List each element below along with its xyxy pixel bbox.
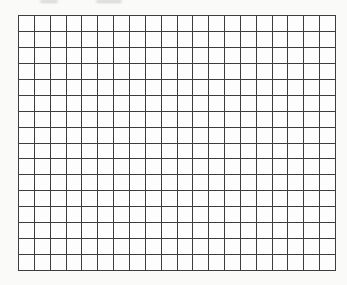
grid-cell bbox=[209, 80, 224, 95]
grid-cell bbox=[209, 112, 224, 127]
grid-cell bbox=[146, 96, 161, 111]
grid-cell bbox=[225, 64, 240, 79]
grid-cell bbox=[178, 96, 193, 111]
grid-cell bbox=[288, 96, 303, 111]
grid-cell bbox=[114, 159, 129, 174]
grid-cell bbox=[130, 16, 145, 31]
grid-cell bbox=[146, 175, 161, 190]
grid-cell bbox=[114, 16, 129, 31]
grid-cell bbox=[35, 175, 50, 190]
grid-cell bbox=[130, 191, 145, 206]
grid-cell bbox=[225, 96, 240, 111]
grid-cell bbox=[19, 128, 34, 143]
grid-cell bbox=[114, 112, 129, 127]
grid-cell bbox=[304, 16, 319, 31]
grid-cell bbox=[162, 239, 177, 254]
grid-cell bbox=[130, 144, 145, 159]
grid-cell bbox=[114, 32, 129, 47]
grid-cell bbox=[178, 128, 193, 143]
grid-cell bbox=[35, 255, 50, 270]
grid-cell bbox=[209, 32, 224, 47]
grid-cell bbox=[51, 255, 66, 270]
grid-cell bbox=[146, 32, 161, 47]
grid-cell bbox=[82, 16, 97, 31]
grid-cell bbox=[209, 175, 224, 190]
grid-cell bbox=[146, 48, 161, 63]
grid-cell bbox=[67, 239, 82, 254]
grid-cell bbox=[98, 255, 113, 270]
grid-cell bbox=[82, 144, 97, 159]
grid-cell bbox=[288, 191, 303, 206]
grid-cell bbox=[114, 223, 129, 238]
grid-cell bbox=[146, 16, 161, 31]
grid-cell bbox=[241, 207, 256, 222]
grid-cell bbox=[320, 207, 335, 222]
grid-cell bbox=[241, 64, 256, 79]
grid-cell bbox=[304, 32, 319, 47]
grid-cell bbox=[51, 112, 66, 127]
grid-cell bbox=[130, 64, 145, 79]
grid-cell bbox=[146, 239, 161, 254]
grid-cell bbox=[114, 255, 129, 270]
grid-cell bbox=[67, 223, 82, 238]
grid-cell bbox=[130, 32, 145, 47]
grid-cell bbox=[146, 144, 161, 159]
grid-cell bbox=[288, 48, 303, 63]
grid-cell bbox=[51, 16, 66, 31]
grid-cell bbox=[51, 144, 66, 159]
grid-cell bbox=[98, 112, 113, 127]
grid-cell bbox=[67, 175, 82, 190]
grid-cell bbox=[67, 144, 82, 159]
grid-cell bbox=[288, 223, 303, 238]
grid-cell bbox=[114, 128, 129, 143]
grid-cell bbox=[98, 128, 113, 143]
grid-cell bbox=[304, 239, 319, 254]
grid-cell bbox=[257, 16, 272, 31]
grid-cell bbox=[51, 64, 66, 79]
grid-cell bbox=[114, 239, 129, 254]
grid-cell bbox=[304, 159, 319, 174]
grid-cell bbox=[193, 175, 208, 190]
grid-cell bbox=[67, 80, 82, 95]
grid-cell bbox=[193, 223, 208, 238]
grid-cell bbox=[273, 112, 288, 127]
grid-cell bbox=[162, 48, 177, 63]
grid-cell bbox=[257, 32, 272, 47]
grid-cell bbox=[67, 159, 82, 174]
grid-cell bbox=[241, 128, 256, 143]
grid-cell bbox=[225, 239, 240, 254]
grid-cell bbox=[130, 223, 145, 238]
grid-cell bbox=[67, 112, 82, 127]
grid-cell bbox=[114, 175, 129, 190]
grid-cell bbox=[257, 175, 272, 190]
grid-cell bbox=[257, 159, 272, 174]
grid-cell bbox=[35, 16, 50, 31]
grid-cell bbox=[162, 32, 177, 47]
grid-cell bbox=[162, 80, 177, 95]
grid-cell bbox=[304, 96, 319, 111]
grid-cell bbox=[209, 207, 224, 222]
grid-cell bbox=[225, 255, 240, 270]
grid-cell bbox=[241, 239, 256, 254]
grid-cell bbox=[320, 255, 335, 270]
grid-cell bbox=[304, 112, 319, 127]
grid-cell bbox=[19, 191, 34, 206]
grid-cell bbox=[288, 80, 303, 95]
grid-cell bbox=[67, 48, 82, 63]
grid-cell bbox=[273, 48, 288, 63]
grid-cell bbox=[114, 48, 129, 63]
grid-cell bbox=[320, 175, 335, 190]
grid-cell bbox=[146, 207, 161, 222]
grid-cell bbox=[114, 80, 129, 95]
cropped-text-artifact bbox=[96, 0, 122, 3]
grid-cell bbox=[241, 96, 256, 111]
grid-cell bbox=[209, 239, 224, 254]
grid-cell bbox=[98, 175, 113, 190]
grid-cell bbox=[19, 239, 34, 254]
grid-cell bbox=[130, 159, 145, 174]
grid-cell bbox=[82, 128, 97, 143]
grid-cell bbox=[193, 159, 208, 174]
grid-cell bbox=[67, 96, 82, 111]
grid-cell bbox=[241, 144, 256, 159]
grid-cell bbox=[225, 112, 240, 127]
